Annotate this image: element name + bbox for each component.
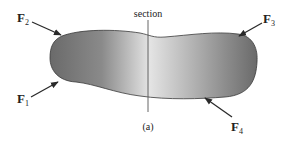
figure-caption: (a) [142, 121, 153, 133]
force-arrow-f4 [205, 98, 232, 117]
section-label: section [134, 8, 162, 19]
force-label-f2: F2 [17, 10, 29, 27]
force-arrow-f1 [31, 82, 58, 97]
force-label-f4: F4 [231, 119, 243, 136]
force-arrow-f3 [239, 23, 262, 36]
force-label-f3: F3 [263, 11, 275, 28]
rigid-body [50, 30, 257, 98]
force-label-f1: F1 [17, 91, 29, 108]
free-body-diagram: section F2 F1 F3 F4 (a) [0, 0, 290, 141]
force-arrow-f2 [32, 22, 61, 35]
